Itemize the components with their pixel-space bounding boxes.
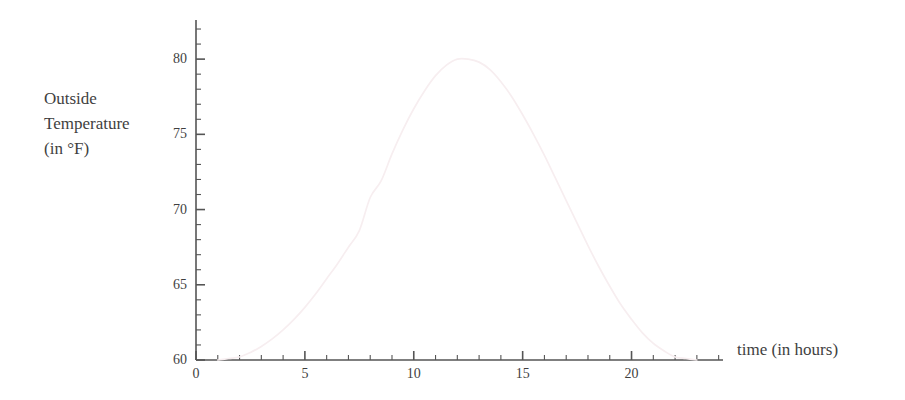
axes (196, 20, 723, 360)
x-axis-label: time (in hours) (737, 337, 838, 362)
x-tick-label: 15 (516, 366, 530, 382)
x-tick-label: 5 (301, 366, 308, 382)
y-tick-label: 70 (173, 202, 187, 218)
data-curve (218, 59, 697, 360)
chart-figure: Outside Temperature (in °F) time (in hou… (0, 0, 905, 400)
y-tick-label: 75 (173, 126, 187, 142)
y-axis-label-line-1: Outside (44, 86, 130, 111)
x-tick-label: 10 (407, 366, 421, 382)
x-tick-label: 0 (193, 366, 200, 382)
y-tick-label: 80 (173, 51, 187, 67)
y-axis-ticks (196, 29, 205, 360)
temperature-curve-path (218, 59, 697, 360)
y-tick-label: 65 (173, 277, 187, 293)
y-axis-label-line-2: Temperature (44, 111, 130, 136)
x-tick-label: 20 (625, 366, 639, 382)
y-axis-label-line-3: (in °F) (44, 136, 130, 161)
y-axis-label: Outside Temperature (in °F) (44, 86, 130, 161)
y-tick-label: 60 (173, 352, 187, 368)
x-axis-ticks (196, 351, 719, 360)
